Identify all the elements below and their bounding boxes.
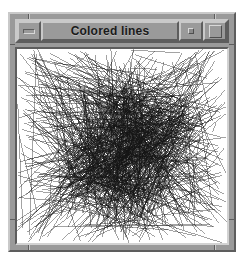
lines-vector-surface: [17, 49, 227, 243]
resize-grip-bottom-left-hl: [29, 245, 30, 250]
minimize-icon: [23, 29, 35, 34]
maximize-button[interactable]: [203, 21, 227, 41]
restore-button[interactable]: [179, 21, 203, 41]
minimize-button[interactable]: [17, 21, 41, 41]
resize-grip-bottom-right-hl: [215, 245, 216, 250]
window-title-label: Colored lines: [71, 24, 150, 38]
restore-icon: [188, 28, 194, 34]
maximize-icon: [209, 25, 222, 38]
window-title: Colored lines: [41, 21, 179, 41]
title-bar[interactable]: Colored lines: [15, 19, 229, 43]
colored-lines-canvas[interactable]: [17, 49, 227, 243]
resize-grip-left-top[interactable]: [10, 44, 15, 45]
screen: Colored lines: [0, 0, 244, 263]
resize-grip-right-top[interactable]: [229, 44, 234, 45]
application-window: Colored lines: [8, 12, 236, 252]
resize-grip-right-bottom[interactable]: [229, 219, 234, 220]
client-area: [15, 47, 229, 245]
